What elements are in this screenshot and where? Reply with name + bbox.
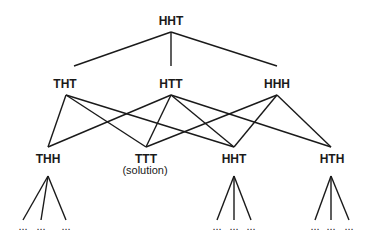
node-level1-tht: THT <box>53 77 76 91</box>
node-level2-hht: HHT <box>222 152 247 166</box>
ellipsis: ... <box>36 220 45 232</box>
ellipsis: ... <box>344 220 353 232</box>
node-level2-hth: HTH <box>320 152 345 166</box>
edge-lines <box>0 0 374 241</box>
node-level1-hhh: HHH <box>264 77 290 91</box>
ellipsis: ... <box>310 220 319 232</box>
node-level2-thh: THH <box>36 152 61 166</box>
node-level1-htt: HTT <box>159 77 182 91</box>
ellipsis: ... <box>212 220 221 232</box>
solution-note: (solution) <box>122 164 167 176</box>
ellipsis: ... <box>326 220 335 232</box>
ellipsis: ... <box>229 220 238 232</box>
node-root: HHT <box>159 14 184 28</box>
ellipsis: ... <box>246 220 255 232</box>
ellipsis: ... <box>61 220 70 232</box>
ellipsis: ... <box>18 220 27 232</box>
